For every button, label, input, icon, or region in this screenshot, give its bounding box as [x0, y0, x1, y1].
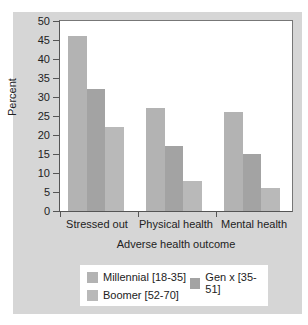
bar-mental-health-millennial	[224, 112, 243, 211]
y-tick-label: 30	[20, 91, 50, 103]
y-tick-label: 25	[20, 110, 50, 122]
bar-mental-health-boomer	[261, 188, 280, 211]
y-tick-label: 20	[20, 129, 50, 141]
legend-label-gen-x: Gen x [35-51]	[205, 271, 268, 295]
y-tick-label: 10	[20, 167, 50, 179]
legend-item-millennial: Millennial [18-35]	[87, 271, 186, 283]
y-tick-label: 0	[20, 205, 50, 217]
y-tick-label: 50	[20, 15, 50, 27]
y-tick-label: 15	[20, 148, 50, 160]
y-tick-label: 5	[20, 186, 50, 198]
x-category-physical-health: Physical health	[136, 218, 216, 230]
legend-item-gen-x: Gen x [35-51]	[190, 271, 268, 295]
legend-label-boomer: Boomer [52-70]	[103, 289, 179, 301]
legend: Millennial [18-35] Gen x [35-51] Boomer …	[80, 265, 268, 306]
bar-mental-health-gen-x	[243, 154, 262, 211]
legend-item-boomer: Boomer [52-70]	[87, 289, 179, 301]
x-tick	[216, 212, 217, 217]
legend-swatch-gen-x	[190, 278, 200, 289]
bar-stressed-out-millennial	[68, 36, 87, 211]
legend-label-millennial: Millennial [18-35]	[103, 271, 186, 283]
bar-physical-health-millennial	[146, 108, 165, 211]
x-axis-title: Adverse health outcome	[59, 238, 293, 250]
plot-area	[59, 20, 293, 212]
x-tick	[138, 212, 139, 217]
y-tick-label: 35	[20, 72, 50, 84]
bar-physical-health-gen-x	[165, 146, 184, 211]
y-tick-label: 45	[20, 34, 50, 46]
x-category-mental-health: Mental health	[214, 218, 294, 230]
y-axis-title: Percent	[6, 78, 18, 116]
bar-stressed-out-gen-x	[87, 89, 106, 211]
bar-stressed-out-boomer	[105, 127, 124, 211]
legend-swatch-boomer	[87, 290, 98, 301]
legend-swatch-millennial	[87, 272, 98, 283]
y-tick-label: 40	[20, 53, 50, 65]
x-tick	[60, 212, 61, 217]
x-category-stressed-out: Stressed out	[57, 218, 137, 230]
bar-physical-health-boomer	[183, 181, 202, 211]
